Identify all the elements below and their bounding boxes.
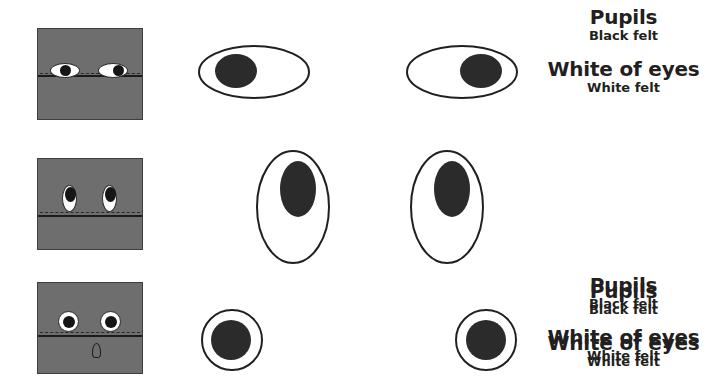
pupil-shape — [466, 320, 506, 360]
reference-panel-tall — [37, 158, 143, 250]
pattern-row-round: Pupils Black felt White of eyes White fe… — [0, 260, 707, 383]
panel-pupil-left — [65, 187, 76, 202]
left-eye-piece-almond — [196, 40, 316, 104]
panel-seam-dashes — [40, 212, 140, 213]
panel-seam-line — [38, 215, 142, 217]
panel-seam-dashes — [40, 332, 140, 333]
panel-eye-right — [102, 185, 117, 212]
panel-pupil-right — [113, 65, 124, 76]
panel-eye-left — [50, 63, 80, 78]
left-eye-piece-tall — [250, 148, 336, 266]
right-eye-piece-round — [452, 306, 520, 374]
panel-eye-right — [100, 311, 121, 332]
pupil-shape — [280, 161, 316, 217]
white-label: White of eyes — [540, 58, 707, 80]
pupils-material: Black felt — [540, 28, 707, 44]
panel-eye-left — [62, 185, 77, 212]
white-label: White of eyes — [540, 326, 707, 348]
legend-round: Pupils Black felt White of eyes White fe… — [540, 274, 707, 365]
panel-pupil-left — [60, 65, 71, 76]
pupils-material: Black felt — [540, 296, 707, 312]
legend-spacer — [540, 44, 707, 58]
legend-almond: Pupils Black felt White of eyes White fe… — [540, 6, 707, 97]
legend-spacer — [540, 312, 707, 326]
panel-pupil-right — [105, 316, 117, 328]
left-eye-piece-round — [198, 306, 266, 374]
reference-panel-round — [37, 282, 143, 374]
panel-eye-left — [58, 311, 79, 332]
pupils-label: Pupils — [540, 274, 707, 296]
panel-pupil-left — [63, 316, 75, 328]
right-eye-piece-tall — [404, 148, 490, 266]
panel-seam-line — [38, 335, 142, 337]
pattern-row-almond: Pupils Black felt White of eyes White fe… — [0, 0, 707, 130]
white-material: White felt — [540, 348, 707, 364]
pattern-row-tall: Pupils Black felt White of eyes White fe… — [0, 130, 707, 260]
pattern-sheet: Pupils Black felt White of eyes White fe… — [0, 0, 707, 383]
pupil-shape — [211, 320, 251, 360]
panel-eye-right — [98, 63, 128, 78]
white-material: White felt — [540, 80, 707, 96]
pupil-shape — [460, 54, 502, 88]
reference-panel-almond — [37, 28, 143, 120]
teardrop-shape — [92, 343, 101, 358]
pupil-shape — [215, 54, 257, 88]
right-eye-piece-almond — [404, 40, 524, 104]
pupil-shape — [434, 161, 470, 217]
pupils-label: Pupils — [540, 6, 707, 28]
panel-pupil-right — [105, 187, 116, 202]
